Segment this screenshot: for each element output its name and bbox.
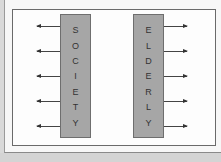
left-arrow-icon: [37, 126, 60, 127]
society-letter: Y: [72, 119, 78, 128]
elderly-letter: Y: [145, 119, 151, 128]
right-arrow-icon: [164, 76, 187, 77]
left-arrow-icon: [37, 51, 60, 52]
society-letter: C: [72, 57, 79, 66]
society-box: S O C I E T Y: [60, 14, 91, 138]
left-arrow-icon: [37, 76, 60, 77]
society-letter: I: [74, 72, 77, 81]
elderly-letter: E: [145, 72, 151, 81]
elderly-box: E L D E R L Y: [133, 14, 164, 138]
society-letter: S: [72, 26, 78, 35]
right-arrow-icon: [164, 101, 187, 102]
elderly-letter: L: [146, 103, 151, 112]
society-letter: O: [72, 42, 79, 51]
society-letter: T: [73, 103, 79, 112]
society-letter: E: [72, 88, 78, 97]
right-arrow-icon: [164, 126, 187, 127]
elderly-letter: L: [146, 42, 151, 51]
right-arrow-icon: [164, 51, 187, 52]
left-arrow-icon: [37, 26, 60, 27]
elderly-letter: E: [145, 26, 151, 35]
right-arrow-icon: [164, 26, 187, 27]
elderly-letter: D: [145, 57, 152, 66]
left-arrow-icon: [37, 101, 60, 102]
elderly-letter: R: [145, 88, 152, 97]
bottom-margin: [0, 153, 221, 162]
